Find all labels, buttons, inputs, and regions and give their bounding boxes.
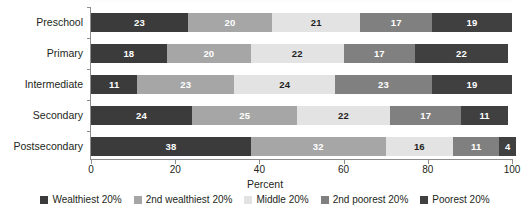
bar-segment: 22	[297, 106, 390, 125]
category-label: Primary	[47, 44, 83, 63]
bar-segment: 4	[499, 137, 516, 156]
y-axis-tick	[87, 100, 91, 101]
bar-segment: 18	[91, 44, 167, 63]
bar-segment-value: 22	[415, 44, 508, 63]
category-label: Preschool	[36, 13, 83, 32]
legend-item[interactable]: 2nd wealthiest 20%	[134, 194, 233, 205]
bar-segment-value: 24	[91, 106, 192, 125]
bar-segment: 17	[360, 13, 432, 32]
bar-row: Intermediate1123242319	[91, 75, 512, 94]
bar-segment-value: 20	[188, 13, 272, 32]
bar-segment: 11	[461, 106, 507, 125]
bar-segment: 23	[91, 13, 188, 32]
x-axis-title-label: Percent	[247, 178, 283, 190]
bar-segment: 11	[453, 137, 499, 156]
bar-segment-value: 11	[461, 106, 507, 125]
x-axis-title: Percent	[0, 178, 530, 190]
x-axis-tick-label: 100	[504, 164, 521, 175]
bar-segment: 19	[432, 75, 512, 94]
bar-segment-value: 32	[251, 137, 386, 156]
legend-swatch-icon	[244, 196, 252, 204]
bar-segment-value: 11	[91, 75, 137, 94]
legend-item[interactable]: Middle 20%	[244, 194, 308, 205]
bar-segment-value: 18	[91, 44, 167, 63]
bar-segment-value: 20	[167, 44, 251, 63]
legend-swatch-icon	[321, 196, 329, 204]
x-axis-tick-label: 40	[254, 164, 265, 175]
legend-swatch-icon	[40, 196, 48, 204]
stacked-bar: 2320211719	[91, 13, 512, 32]
legend-label: Wealthiest 20%	[52, 194, 121, 205]
bar-segment: 20	[167, 44, 251, 63]
legend-item[interactable]: Wealthiest 20%	[40, 194, 121, 205]
x-axis-tick-label: 20	[170, 164, 181, 175]
bar-segment-value: 17	[390, 106, 462, 125]
stacked-bar-chart: Preschool2320211719Primary1820221722Inte…	[0, 0, 530, 214]
category-label: Postsecondary	[14, 137, 83, 156]
top-crop-artifact	[91, 0, 512, 3]
bar-segment: 22	[415, 44, 508, 63]
x-axis-tick-label: 60	[338, 164, 349, 175]
legend-item[interactable]: Poorest 20%	[420, 194, 489, 205]
category-label: Intermediate	[25, 75, 83, 94]
bar-segment-value: 23	[335, 75, 432, 94]
bar-segment: 24	[91, 106, 192, 125]
stacked-bar: 1820221722	[91, 44, 508, 63]
plot-area: Preschool2320211719Primary1820221722Inte…	[91, 8, 512, 160]
legend-swatch-icon	[134, 196, 142, 204]
bar-segment: 38	[91, 137, 251, 156]
bar-segment: 25	[192, 106, 297, 125]
legend-swatch-icon	[420, 196, 428, 204]
bar-segment-value: 23	[91, 13, 188, 32]
y-axis-tick	[87, 131, 91, 132]
bar-row: Primary1820221722	[91, 44, 512, 63]
stacked-bar: 2425221711	[91, 106, 508, 125]
bar-segment: 11	[91, 75, 137, 94]
stacked-bar: 383216114	[91, 137, 516, 156]
y-axis-tick	[87, 7, 91, 8]
bar-segment: 23	[335, 75, 432, 94]
y-axis-tick	[87, 38, 91, 39]
bar-segment: 20	[188, 13, 272, 32]
bar-row: Preschool2320211719	[91, 13, 512, 32]
bar-row: Postsecondary383216114	[91, 137, 512, 156]
bar-segment: 32	[251, 137, 386, 156]
bar-segment-value: 17	[344, 44, 416, 63]
bar-segment-value: 4	[499, 137, 516, 156]
bar-segment-value: 21	[272, 13, 360, 32]
bar-segment-value: 23	[137, 75, 234, 94]
legend-label: Middle 20%	[256, 194, 308, 205]
bar-segment-value: 17	[360, 13, 432, 32]
bar-segment: 22	[251, 44, 344, 63]
bar-row: Secondary2425221711	[91, 106, 512, 125]
legend-item[interactable]: 2nd poorest 20%	[321, 194, 409, 205]
x-axis-tick-label: 0	[88, 164, 94, 175]
legend-label: 2nd poorest 20%	[333, 194, 409, 205]
stacked-bar: 1123242319	[91, 75, 512, 94]
bar-segment-value: 19	[432, 75, 512, 94]
bar-segment-value: 25	[192, 106, 297, 125]
bar-segment: 17	[344, 44, 416, 63]
bar-segment: 24	[234, 75, 335, 94]
bar-segment-value: 22	[297, 106, 390, 125]
chart-legend: Wealthiest 20%2nd wealthiest 20%Middle 2…	[0, 194, 530, 205]
bar-segment: 17	[390, 106, 462, 125]
x-axis-tick-label: 80	[422, 164, 433, 175]
legend-label: Poorest 20%	[432, 194, 489, 205]
bar-segment: 16	[386, 137, 453, 156]
y-axis-tick	[87, 69, 91, 70]
bar-segment: 19	[432, 13, 512, 32]
legend-label: 2nd wealthiest 20%	[146, 194, 233, 205]
bar-segment: 23	[137, 75, 234, 94]
bar-segment-value: 11	[453, 137, 499, 156]
category-label: Secondary	[33, 106, 83, 125]
bar-segment-value: 24	[234, 75, 335, 94]
bar-segment-value: 19	[432, 13, 512, 32]
bar-segment-value: 38	[91, 137, 251, 156]
bar-segment-value: 16	[386, 137, 453, 156]
bar-segment-value: 22	[251, 44, 344, 63]
bar-segment: 21	[272, 13, 360, 32]
